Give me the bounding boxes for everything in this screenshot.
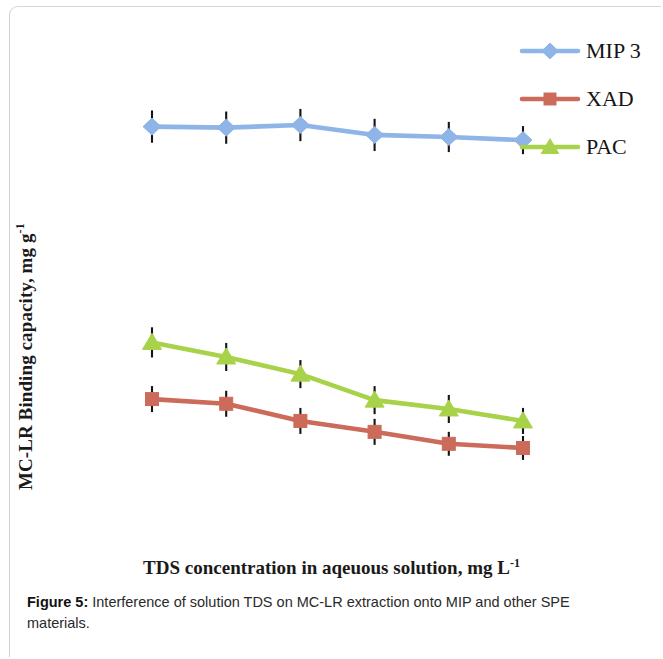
figure-caption: Figure 5: Interference of solution TDS o… xyxy=(27,592,633,634)
series-xad xyxy=(146,393,530,455)
data-point-marker xyxy=(366,126,384,143)
data-point-marker xyxy=(442,437,455,450)
series-pac xyxy=(143,333,533,428)
legend-item-label: PAC xyxy=(586,134,627,160)
legend-marker-triangle-icon xyxy=(519,136,581,158)
series-layer xyxy=(143,109,533,460)
legend-item-label: XAD xyxy=(586,86,634,112)
figure-caption-text: Interference of solution TDS on MC-LR ex… xyxy=(27,594,570,631)
data-point-marker xyxy=(146,393,159,406)
series-line xyxy=(152,342,523,421)
data-point-marker xyxy=(217,119,235,136)
figure-page: MC-LR Binding capacity, mg g-1 TDS conce… xyxy=(0,0,663,659)
data-point-marker xyxy=(291,117,309,134)
data-point-marker xyxy=(517,441,530,454)
series-mip-3 xyxy=(143,117,532,149)
series-line xyxy=(152,399,523,448)
chart-legend: MIP 3XADPAC xyxy=(519,27,659,171)
series-line xyxy=(152,125,523,140)
legend-item-label: MIP 3 xyxy=(586,38,641,64)
data-point-marker xyxy=(368,425,381,438)
legend-item-pac: PAC xyxy=(519,123,659,171)
chart-figure: MC-LR Binding capacity, mg g-1 TDS conce… xyxy=(0,0,663,588)
figure-number-label: Figure 5: xyxy=(27,594,88,610)
data-point-marker xyxy=(220,397,233,410)
data-point-marker xyxy=(143,118,161,135)
legend-item-mip-3: MIP 3 xyxy=(519,27,659,75)
legend-marker-diamond-icon xyxy=(519,40,581,62)
legend-item-xad: XAD xyxy=(519,75,659,123)
data-point-marker xyxy=(440,129,458,146)
legend-marker-square-icon xyxy=(519,88,581,110)
data-point-marker xyxy=(294,414,307,427)
